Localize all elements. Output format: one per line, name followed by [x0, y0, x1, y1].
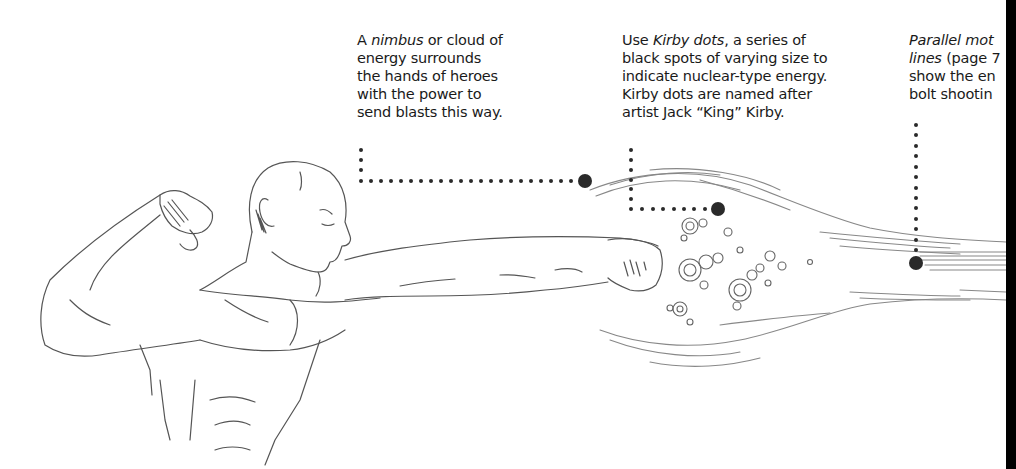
- caption-line: bolt shootin: [909, 85, 1006, 103]
- emphasis-term: Kirby dots: [653, 32, 724, 48]
- page-edge-bar: [1006, 0, 1016, 469]
- caption-kirby-dots: Use Kirby dots, a series of black spots …: [622, 31, 827, 121]
- caption-nimbus: A nimbus or cloud of energy surrounds th…: [357, 31, 503, 121]
- caption-line: Use Kirby dots, a series of: [622, 31, 827, 49]
- caption-motion-lines: Parallel mot lines (page 7 show the en b…: [909, 31, 1006, 103]
- caption-line: energy surrounds: [357, 49, 503, 67]
- emphasis-term: nimbus: [371, 32, 423, 48]
- leader-line-icon: [0, 0, 1016, 469]
- caption-line: black spots of varying size to: [622, 49, 827, 67]
- caption-line: send blasts this way.: [357, 103, 503, 121]
- caption-line: artist Jack “King” Kirby.: [622, 103, 827, 121]
- caption-line: with the power to: [357, 85, 503, 103]
- caption-line: the hands of heroes: [357, 67, 503, 85]
- caption-line: Kirby dots are named after: [622, 85, 827, 103]
- caption-line: lines (page 7: [909, 49, 1006, 67]
- caption-line: show the en: [909, 67, 1006, 85]
- emphasis-term: lines: [909, 50, 942, 66]
- caption-line: A nimbus or cloud of: [357, 31, 503, 49]
- caption-line: indicate nuclear-type energy.: [622, 67, 827, 85]
- caption-line: Parallel mot: [909, 31, 1006, 49]
- emphasis-term: Parallel mot: [909, 32, 993, 48]
